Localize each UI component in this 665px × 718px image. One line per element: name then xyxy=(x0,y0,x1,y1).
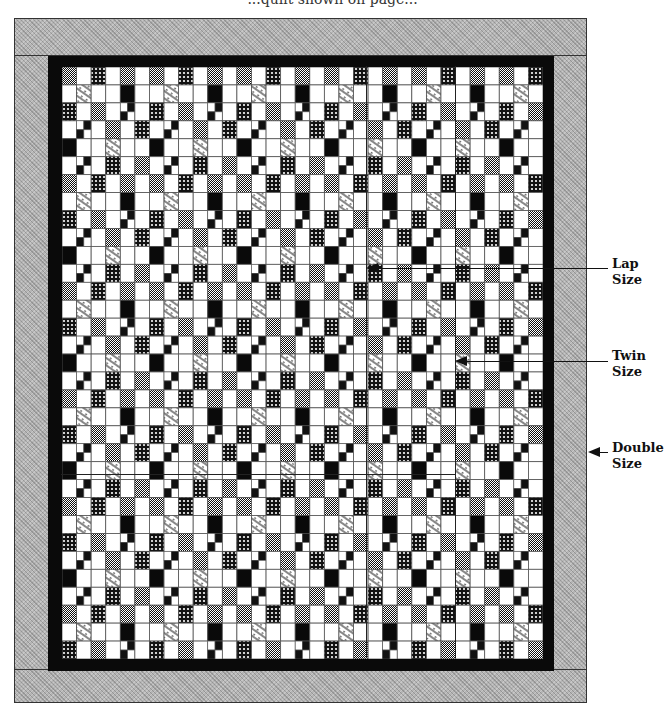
border-top-strip xyxy=(15,19,586,56)
lap-size-boundary-line xyxy=(366,66,367,658)
inner-black-border xyxy=(48,56,554,671)
size-boundary-horizontal-line xyxy=(61,474,455,475)
lap-size-label: Lap Size xyxy=(612,256,642,288)
twin-size-label: Twin Size xyxy=(612,348,646,380)
twin-leader-line xyxy=(465,361,608,362)
border-bottom-strip xyxy=(15,669,586,702)
double-leader-line xyxy=(598,452,608,453)
cut-off-caption: ...quilt shown on page... xyxy=(0,0,665,7)
double-size-label: Double Size xyxy=(612,440,664,472)
quilt-block-grid xyxy=(62,67,543,659)
lap-leader-line xyxy=(376,268,608,269)
